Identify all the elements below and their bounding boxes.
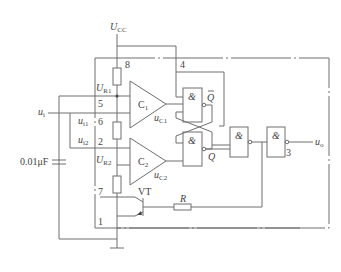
base-resistor bbox=[174, 204, 191, 210]
divider-resistor-2 bbox=[113, 122, 121, 139]
output-gate-1-bubble bbox=[248, 140, 252, 144]
pin-3-label: 3 bbox=[286, 147, 291, 158]
ui1-label: ui1 bbox=[78, 115, 89, 128]
pin-8-label: 8 bbox=[125, 59, 130, 70]
uc1-label: uC1 bbox=[154, 112, 168, 125]
capacitor-loop-wire bbox=[59, 96, 117, 239]
ui-label: ui bbox=[38, 106, 45, 119]
q-label: Q bbox=[208, 151, 216, 162]
uc2-label: uC2 bbox=[154, 169, 168, 182]
emitter-arrow-icon bbox=[137, 211, 142, 215]
pin-4-label: 4 bbox=[180, 59, 185, 70]
pin-1-label: 1 bbox=[98, 216, 103, 227]
latch-1-bubble bbox=[202, 103, 206, 107]
latch-1-symbol: & bbox=[188, 91, 196, 102]
supply-label: UCC bbox=[110, 21, 127, 34]
q-wire bbox=[206, 143, 231, 149]
latch-2-symbol: & bbox=[188, 135, 196, 146]
latch-2-bubble bbox=[202, 147, 206, 151]
circuit-diagram: UCC 8 4 UR1 5 6 2 UR2 7 1 ui ui1 ui2 C1 … bbox=[0, 0, 341, 272]
ur2-label: UR2 bbox=[96, 154, 112, 167]
output-gate-1-symbol: & bbox=[235, 130, 243, 141]
pin-6-label: 6 bbox=[98, 116, 103, 127]
divider-resistor-3 bbox=[113, 176, 121, 193]
q-bar-label: Q bbox=[207, 92, 215, 103]
pin-5-label: 5 bbox=[98, 98, 103, 109]
capacitor-label: 0.01μF bbox=[20, 156, 49, 167]
reset-to-latch-wire bbox=[176, 72, 183, 97]
pin-7-label: 7 bbox=[98, 186, 103, 197]
resistor-label: R bbox=[179, 193, 186, 204]
transistor-collector bbox=[100, 197, 143, 202]
transistor-label: VT bbox=[138, 186, 151, 197]
output-label: uo bbox=[315, 136, 324, 149]
output-gate-2-symbol: & bbox=[272, 130, 280, 141]
ui2-label: ui2 bbox=[78, 134, 89, 147]
output-gate-2-bubble bbox=[285, 140, 289, 144]
ur1-label: UR1 bbox=[96, 82, 112, 95]
divider-resistor-1 bbox=[113, 68, 121, 85]
pin-2-label: 2 bbox=[98, 136, 103, 147]
